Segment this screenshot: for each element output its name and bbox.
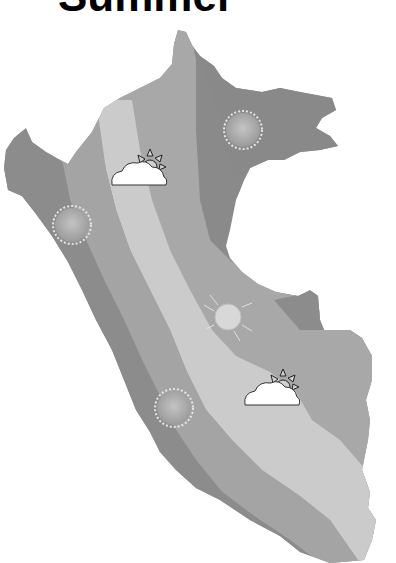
climate-zones [0,0,396,563]
peru-map [0,0,396,563]
